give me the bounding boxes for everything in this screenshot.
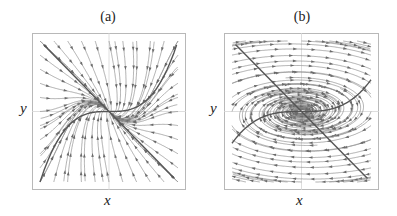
panel-b-title: (b) xyxy=(203,9,397,25)
arrowhead-icon xyxy=(120,172,123,176)
panel-b-x-axis-label: x xyxy=(296,192,303,209)
arrowhead-icon xyxy=(311,178,315,181)
arrowhead-icon xyxy=(125,85,128,89)
arrowhead-icon xyxy=(59,139,62,143)
arrowhead-icon xyxy=(132,65,135,69)
arrowhead-icon xyxy=(110,136,113,140)
arrowhead-icon xyxy=(252,57,256,60)
arrowhead-icon xyxy=(84,172,87,176)
arrowhead-icon xyxy=(362,128,366,131)
arrowhead-icon xyxy=(136,66,139,70)
arrowhead-icon xyxy=(91,134,94,138)
arrowhead-icon xyxy=(272,139,276,142)
arrowhead-icon xyxy=(80,171,83,175)
arrowhead-icon xyxy=(325,44,329,47)
arrowhead-icon xyxy=(92,116,95,120)
arrowhead-icon xyxy=(70,46,73,50)
arrowhead-icon xyxy=(336,89,340,92)
arrowhead-icon xyxy=(252,45,256,48)
arrowhead-icon xyxy=(93,171,96,175)
arrowhead-icon xyxy=(122,48,125,52)
arrowhead-icon xyxy=(307,43,311,46)
arrowhead-icon xyxy=(254,85,258,88)
arrowhead-icon xyxy=(290,76,294,79)
arrowhead-icon xyxy=(150,132,154,135)
arrowhead-icon xyxy=(255,161,259,164)
arrowhead-icon xyxy=(362,77,366,80)
arrowhead-icon xyxy=(293,48,297,51)
arrowhead-icon xyxy=(238,156,242,159)
arrowhead-icon xyxy=(112,121,115,125)
arrowhead-icon xyxy=(278,40,282,43)
arrowhead-icon xyxy=(251,167,255,170)
arrowhead-icon xyxy=(149,113,153,116)
arrowhead-icon xyxy=(133,127,137,129)
arrowhead-icon xyxy=(98,154,101,158)
arrowhead-icon xyxy=(365,58,369,61)
arrowhead-icon xyxy=(256,135,260,138)
arrowhead-icon xyxy=(157,79,160,83)
arrowhead-icon xyxy=(309,65,313,68)
panel-a-y-axis-label: y xyxy=(20,100,27,117)
arrowhead-icon xyxy=(263,131,267,134)
arrowhead-icon xyxy=(309,156,313,159)
arrowhead-icon xyxy=(54,172,57,176)
arrowhead-icon xyxy=(83,154,86,158)
arrowhead-icon xyxy=(97,81,100,85)
arrowhead-icon xyxy=(347,163,351,166)
arrowhead-icon xyxy=(309,144,313,147)
arrowhead-icon xyxy=(275,60,279,63)
arrowhead-icon xyxy=(345,71,349,74)
arrowhead-icon xyxy=(293,60,297,63)
arrowhead-icon xyxy=(305,150,309,153)
arrowhead-icon xyxy=(238,66,242,69)
arrowhead-icon xyxy=(324,172,328,175)
arrowhead-icon xyxy=(65,107,69,110)
arrowhead-icon xyxy=(59,154,62,158)
arrowhead-icon xyxy=(64,89,68,92)
arrowhead-icon xyxy=(236,72,240,75)
arrowhead-icon xyxy=(361,51,365,54)
arrowhead-icon xyxy=(91,153,94,157)
arrowhead-icon xyxy=(361,64,365,67)
arrowhead-icon xyxy=(83,97,87,100)
arrowhead-icon xyxy=(232,176,236,179)
arrowhead-icon xyxy=(115,154,118,158)
arrowhead-icon xyxy=(161,47,164,51)
arrowhead-icon xyxy=(306,161,310,164)
arrowhead-icon xyxy=(289,54,293,57)
arrowhead-icon xyxy=(347,66,351,69)
arrowhead-icon xyxy=(164,106,168,109)
arrowhead-icon xyxy=(117,65,120,69)
arrowhead-icon xyxy=(275,48,279,51)
arrowhead-icon xyxy=(343,171,347,174)
arrowhead-icon xyxy=(290,79,294,82)
arrowhead-icon xyxy=(238,169,242,172)
arrowhead-icon xyxy=(236,179,240,182)
arrowhead-icon xyxy=(124,66,127,70)
arrowhead-icon xyxy=(257,50,261,53)
panel-b-phase-portrait xyxy=(224,33,379,190)
arrowhead-icon xyxy=(125,155,128,159)
arrowhead-icon xyxy=(234,61,238,64)
arrowhead-icon xyxy=(301,127,305,130)
arrowhead-icon xyxy=(263,180,267,183)
arrowhead-icon xyxy=(290,156,294,159)
arrowhead-icon xyxy=(231,102,235,106)
arrowhead-icon xyxy=(325,160,329,163)
panel-a: (a) y x xyxy=(0,0,198,216)
arrowhead-icon xyxy=(326,91,330,94)
arrowhead-icon xyxy=(237,92,241,95)
arrowhead-icon xyxy=(168,136,172,139)
arrowhead-icon xyxy=(103,153,106,157)
arrowhead-icon xyxy=(83,47,86,51)
arrowhead-icon xyxy=(359,141,363,144)
arrowhead-icon xyxy=(104,98,107,102)
arrowhead-icon xyxy=(344,60,348,63)
arrowhead-icon xyxy=(119,83,122,87)
arrowhead-icon xyxy=(306,173,310,176)
arrowhead-icon xyxy=(310,166,314,169)
arrowhead-icon xyxy=(308,87,312,90)
arrowhead-icon xyxy=(360,113,363,117)
arrowhead-icon xyxy=(309,133,313,136)
